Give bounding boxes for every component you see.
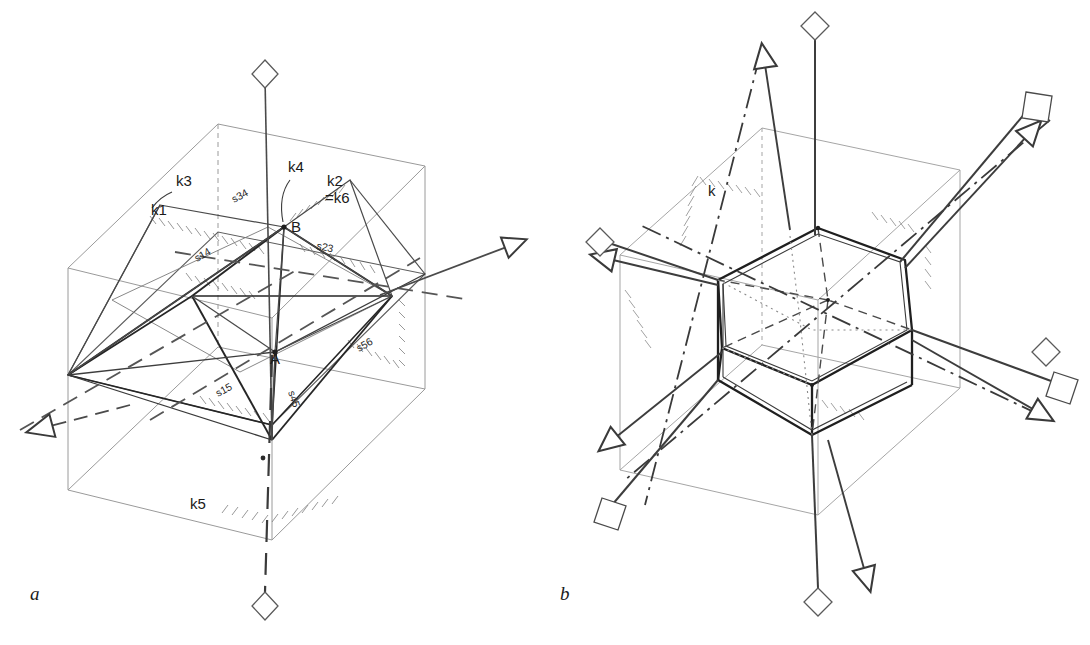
square-marker-ne-b <box>1022 92 1052 122</box>
diamond-marker-bottom-b <box>804 588 832 616</box>
diamond-marker-top-b <box>801 12 829 40</box>
outer-cube <box>68 124 425 540</box>
hatching-marks-b <box>625 176 931 420</box>
axis-arrow-right-a <box>380 240 525 295</box>
diamond-marker-w-b <box>586 228 614 256</box>
square-marker-e-b <box>1046 372 1078 404</box>
label-k3: k3 <box>176 172 192 189</box>
label-s34: s34 <box>229 186 250 205</box>
axes-lines-b <box>600 40 1062 588</box>
label-k5: k5 <box>190 495 206 512</box>
label-k-b: k <box>708 182 716 199</box>
panel-label-a: a <box>30 583 40 604</box>
label-k1: k1 <box>151 201 167 218</box>
label-k6: =k6 <box>325 189 350 206</box>
outer-cube-b <box>620 128 960 515</box>
axis-arrow-left-a <box>28 405 130 432</box>
label-k2: k2 <box>327 172 343 189</box>
axes-arrows-b <box>592 45 1052 590</box>
diamond-marker-top-a <box>252 60 278 88</box>
dashed-diagonals <box>20 252 470 430</box>
panel-label-b: b <box>560 583 570 604</box>
principal-axis-lower <box>265 355 272 592</box>
inner-prism-b <box>718 228 912 435</box>
figure-canvas: k1 k3 k4 k2 =k6 k5 B A s34 s14 s23 s56 s… <box>0 0 1090 645</box>
figure-svg: k1 k3 k4 k2 =k6 k5 B A s34 s14 s23 s56 s… <box>0 0 1090 645</box>
diamond-marker-bottom-a <box>252 592 278 620</box>
panel-a: k1 k3 k4 k2 =k6 k5 B A s34 s14 s23 s56 s… <box>20 60 525 620</box>
symmetry-axes-b <box>625 55 1050 505</box>
square-marker-sw-b <box>594 498 626 530</box>
label-k4: k4 <box>288 158 304 175</box>
hidden-edges-b <box>718 228 912 435</box>
label-s15: s15 <box>213 380 234 399</box>
axis-dot <box>261 456 266 461</box>
diamond-marker-e-b <box>1032 338 1060 366</box>
point-label-B: B <box>291 218 301 235</box>
point-label-A: A <box>270 350 280 367</box>
panel-b: k b <box>560 12 1078 616</box>
principal-axis-k4 <box>265 78 272 440</box>
